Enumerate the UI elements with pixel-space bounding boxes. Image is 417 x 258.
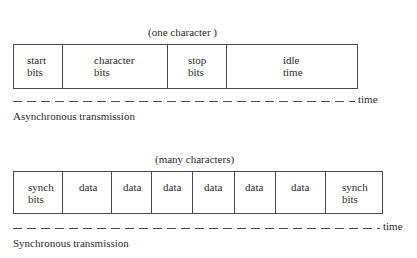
sync-title: Synchronous transmission [13,237,129,249]
async-time-label: time [358,93,378,105]
async-frame: start bits character bits stop bits idle… [13,44,358,89]
sync-time-label: time [383,220,403,232]
field-label-line1: character [94,54,167,66]
async-time-axis [13,101,355,102]
field-label-line1: data [245,181,275,193]
sync-field-data-3: data [152,172,193,213]
field-label-line2: bits [94,66,167,78]
sync-field-data-6: data [276,172,326,213]
sync-field-synch-bits-end: synch bits [326,172,382,213]
field-label-line1: data [163,181,192,193]
async-title: Asynchronous transmission [13,110,135,122]
field-label-line2: bits [28,193,62,205]
sync-field-data-5: data [235,172,276,213]
field-label-line1: data [79,181,111,193]
field-label-line1: stop [188,54,226,66]
async-field-stop-bits: stop bits [168,45,227,88]
field-label-line1: synch [342,181,382,193]
sync-field-synch-bits-start: synch bits [14,172,63,213]
sync-time-axis [13,228,380,229]
field-label-line1: synch [28,181,62,193]
field-label-line1: data [204,181,234,193]
field-label-line2: bits [188,66,226,78]
field-label-line2: time [283,66,357,78]
field-label-line1: data [123,181,151,193]
field-label-line2: bits [27,66,62,78]
field-label-line2: bits [342,193,382,205]
field-label-line1: data [291,181,325,193]
field-label-line1: start [27,54,62,66]
async-field-character-bits: character bits [63,45,168,88]
sync-field-data-4: data [193,172,235,213]
async-field-idle-time: idle time [227,45,357,88]
async-field-start-bits: start bits [14,45,63,88]
field-label-line1: idle [283,54,357,66]
sync-frame: synch bits data data data data data data… [13,171,383,214]
async-span-caption: (one character ) [148,26,217,38]
sync-span-caption: (many characters) [155,153,234,165]
sync-field-data-1: data [63,172,112,213]
sync-field-data-2: data [112,172,152,213]
